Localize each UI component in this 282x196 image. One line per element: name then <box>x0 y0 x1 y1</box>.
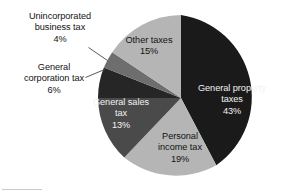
slice-label-personal-income-tax: Personal income tax 19% <box>141 131 219 165</box>
slice-label-line1: General property <box>198 83 266 93</box>
slice-callout-unincorporated-business-tax: Unincorporated business tax 4% <box>8 11 112 45</box>
slice-label-line2: tax <box>115 108 127 118</box>
slice-callout-general-corporation-tax: General corporation tax 6% <box>4 62 104 96</box>
callout-line1: General <box>38 62 70 72</box>
slice-label-percent: 19% <box>141 154 219 165</box>
callout-line2: corporation tax <box>24 73 84 83</box>
callout-line2: business tax <box>35 22 85 32</box>
slice-label-general-property-taxes: General property taxes 43% <box>186 83 278 117</box>
leader-line-unincorporated-business-tax <box>89 48 108 61</box>
slice-label-percent: 43% <box>186 106 278 117</box>
slice-label-percent: 13% <box>85 120 157 131</box>
slice-label-other-taxes: Other taxes 15% <box>110 35 188 58</box>
slice-label-line1: Other taxes <box>126 35 173 45</box>
slice-label-percent: 15% <box>110 46 188 57</box>
callout-percent: 4% <box>8 34 112 45</box>
bottom-divider-rule <box>2 189 42 190</box>
slice-label-line2: income tax <box>158 142 202 152</box>
callout-line1: Unincorporated <box>29 11 91 21</box>
pie-chart-figure: Unincorporated business tax 4% General c… <box>0 0 282 196</box>
slice-label-line2: taxes <box>221 94 243 104</box>
slice-label-line1: Personal <box>162 131 198 141</box>
slice-label-line1: General sales <box>93 97 149 107</box>
callout-percent: 6% <box>4 85 104 96</box>
slice-label-general-sales-tax: General sales tax 13% <box>85 97 157 131</box>
